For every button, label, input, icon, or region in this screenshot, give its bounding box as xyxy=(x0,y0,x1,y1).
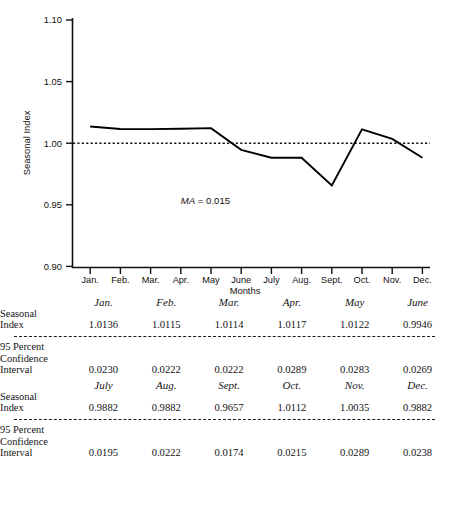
row-label: Seasonal Index xyxy=(0,391,72,416)
table-cell: 0.0222 xyxy=(198,339,261,379)
x-axis-tick-labels: Jan. Feb. Mar. Apr. May June July Aug. S… xyxy=(82,275,432,285)
corner-cell xyxy=(0,296,72,308)
column-header: Oct. xyxy=(260,379,323,391)
x-tick-label: Oct. xyxy=(354,275,371,285)
row-label: Seasonal Index xyxy=(0,308,72,333)
table-cell: 1.0122 xyxy=(323,308,386,333)
table-cell: 1.0115 xyxy=(135,308,198,333)
x-tick-label: July xyxy=(263,275,280,285)
table-cell: 0.0289 xyxy=(323,422,386,462)
table-cell: 0.0222 xyxy=(135,422,198,462)
ma-annotation: MA = 0.015 xyxy=(181,195,230,206)
y-tick-label: 0.90 xyxy=(44,261,62,272)
table-row: 95 Percent Confidence Interval 0.0230 0.… xyxy=(0,339,449,379)
row-label: 95 Percent Confidence Interval xyxy=(0,422,72,462)
table-cell: 0.0215 xyxy=(260,422,323,462)
column-header: Sept. xyxy=(198,379,261,391)
column-header: Aug. xyxy=(135,379,198,391)
table-cell: 1.0114 xyxy=(198,308,261,333)
y-axis-title: Seasonal Index xyxy=(21,110,32,175)
table-cell: 0.0222 xyxy=(135,339,198,379)
x-tick-label: May xyxy=(202,275,220,285)
table-cell: 0.0238 xyxy=(386,422,449,462)
x-tick-label: Feb. xyxy=(111,275,129,285)
x-tick-label: Apr. xyxy=(173,275,189,285)
chart-canvas: 1.10 1.05 1.00 0.95 0.90 Seasonal Index … xyxy=(0,0,449,296)
x-tick-label: Nov. xyxy=(383,275,401,285)
x-tick-label: Jan. xyxy=(82,275,99,285)
x-tick-label: Aug. xyxy=(292,275,311,285)
ma-annotation-symbol: MA xyxy=(181,195,195,206)
y-tick-label: 1.05 xyxy=(44,76,62,87)
table-second-half: July Aug. Sept. Oct. Nov. Dec. Seasonal … xyxy=(0,379,449,462)
row-label: 95 Percent Confidence Interval xyxy=(0,339,72,379)
table-cell: 0.9882 xyxy=(135,391,198,416)
table-cell: 0.9882 xyxy=(386,391,449,416)
column-header: Nov. xyxy=(323,379,386,391)
column-header: Apr. xyxy=(260,296,323,308)
table-row: Seasonal Index 1.0136 1.0115 1.0114 1.01… xyxy=(0,308,449,333)
table-cell: 1.0112 xyxy=(260,391,323,416)
y-tick-label: 1.00 xyxy=(44,138,62,149)
column-header: Feb. xyxy=(135,296,198,308)
seasonal-index-tables: Jan. Feb. Mar. Apr. May June Seasonal In… xyxy=(0,296,449,462)
table-header-row: Jan. Feb. Mar. Apr. May June xyxy=(0,296,449,308)
ma-annotation-value: = 0.015 xyxy=(195,195,230,206)
y-tick-label: 0.95 xyxy=(44,199,62,210)
table-cell: 0.0283 xyxy=(323,339,386,379)
table-cell: 0.0289 xyxy=(260,339,323,379)
table-cell: 1.0136 xyxy=(72,308,135,333)
table-cell: 0.0269 xyxy=(386,339,449,379)
table-row: 95 Percent Confidence Interval 0.0195 0.… xyxy=(0,422,449,462)
column-header: Mar. xyxy=(198,296,261,308)
x-tick-label: Dec. xyxy=(413,275,432,285)
table-cell: 0.9657 xyxy=(198,391,261,416)
corner-cell xyxy=(0,379,72,391)
table-cell: 0.9946 xyxy=(386,308,449,333)
table-cell: 0.0230 xyxy=(72,339,135,379)
table-cell: 0.0195 xyxy=(72,422,135,462)
table-cell: 1.0035 xyxy=(323,391,386,416)
x-tick-label: Sept. xyxy=(321,275,342,285)
y-axis-tick-labels: 1.10 1.05 1.00 0.95 0.90 xyxy=(44,14,62,271)
table-cell: 1.0117 xyxy=(260,308,323,333)
table-header-row: July Aug. Sept. Oct. Nov. Dec. xyxy=(0,379,449,391)
table-cell: 0.9882 xyxy=(72,391,135,416)
seasonal-index-chart: 1.10 1.05 1.00 0.95 0.90 Seasonal Index … xyxy=(0,0,449,296)
column-header: Dec. xyxy=(386,379,449,391)
x-tick-label: Mar. xyxy=(142,275,160,285)
column-header: July xyxy=(72,379,135,391)
table-cell: 0.0174 xyxy=(198,422,261,462)
x-axis-title: Months xyxy=(230,285,261,296)
column-header: Jan. xyxy=(72,296,135,308)
dashed-divider xyxy=(14,336,435,337)
column-header: May xyxy=(323,296,386,308)
x-axis-ticks xyxy=(90,268,422,275)
dashed-divider xyxy=(14,419,435,420)
y-axis-ticks xyxy=(66,20,73,266)
seasonal-index-series xyxy=(90,126,422,185)
column-header: June xyxy=(386,296,449,308)
y-tick-label: 1.10 xyxy=(44,14,62,25)
table-first-half: Jan. Feb. Mar. Apr. May June Seasonal In… xyxy=(0,296,449,379)
table-row: Seasonal Index 0.9882 0.9882 0.9657 1.01… xyxy=(0,391,449,416)
x-tick-label: June xyxy=(231,275,251,285)
